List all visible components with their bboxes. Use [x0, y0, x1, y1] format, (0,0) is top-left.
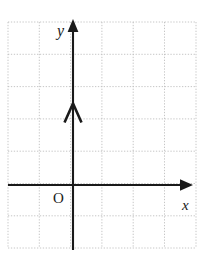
- figure-background: [0, 0, 210, 275]
- origin-label: O: [53, 190, 64, 206]
- y-axis-label: y: [55, 22, 65, 40]
- x-axis-label: x: [181, 197, 189, 213]
- coordinate-plane-figure: y x O: [0, 0, 210, 275]
- coordinate-plane-svg: y x O: [0, 0, 210, 275]
